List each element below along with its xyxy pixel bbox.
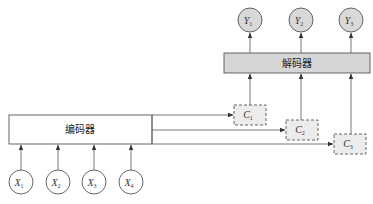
encoder-label: 编码器 — [65, 123, 95, 135]
decoder-label: 解码器 — [282, 57, 312, 69]
encoder-block: 编码器 — [9, 115, 152, 144]
input-node-x3: X3 — [82, 145, 106, 194]
input-node-x1: X1 — [9, 145, 33, 194]
input-node-x2: X2 — [46, 145, 70, 194]
context-node-c2: C2 — [286, 74, 318, 140]
input-node-x4: X4 — [119, 145, 143, 194]
output-node-y1: Y1 — [238, 8, 262, 53]
input-nodes: X1 X2 X3 X4 — [9, 145, 143, 194]
context-node-c3: C3 — [334, 74, 366, 154]
output-node-y2: Y2 — [289, 8, 313, 53]
output-node-y3: Y3 — [339, 8, 363, 53]
context-node-c1: C1 — [234, 74, 266, 125]
output-nodes: Y1 Y2 Y3 — [238, 8, 363, 53]
context-nodes: C1 C2 C3 — [234, 74, 366, 154]
diagram-canvas: 编码器 X1 X2 X3 X4 — [0, 0, 373, 204]
decoder-block: 解码器 — [224, 53, 370, 73]
